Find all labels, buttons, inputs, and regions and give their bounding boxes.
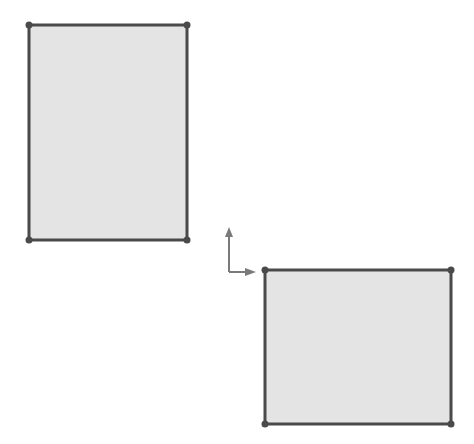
corner-point[interactable] xyxy=(448,421,455,428)
corner-point[interactable] xyxy=(184,237,191,244)
rectangle-shape[interactable] xyxy=(29,25,187,240)
corner-point[interactable] xyxy=(26,237,33,244)
sketch-rectangle-1[interactable] xyxy=(26,22,191,244)
origin-axes-icon xyxy=(225,227,256,276)
corner-point[interactable] xyxy=(262,421,269,428)
corner-point[interactable] xyxy=(184,22,191,29)
corner-point[interactable] xyxy=(448,267,455,274)
corner-point[interactable] xyxy=(262,267,269,274)
sketch-canvas[interactable] xyxy=(0,0,474,444)
rectangle-shape[interactable] xyxy=(265,270,451,424)
sketch-rectangle-2[interactable] xyxy=(262,267,455,428)
corner-point[interactable] xyxy=(26,22,33,29)
x-axis-arrow-icon xyxy=(245,268,256,276)
sketch-rectangles xyxy=(26,22,455,428)
y-axis-arrow-icon xyxy=(225,227,233,237)
